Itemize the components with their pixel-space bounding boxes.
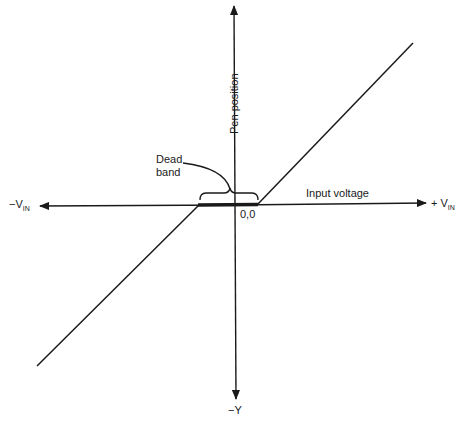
x-positive-prefix: + V	[431, 197, 448, 209]
origin-label-text: 0,0	[240, 208, 255, 220]
transfer-line-negative	[37, 205, 199, 366]
origin-label: 0,0	[240, 208, 255, 220]
dead-band-label-line1: Dead	[156, 153, 182, 166]
x-positive-label: + VIN	[431, 197, 455, 214]
dead-band-brace	[200, 188, 258, 200]
dead-band-segment	[198, 205, 258, 206]
x-axis-label: Input voltage	[306, 187, 369, 199]
x-negative-label: −VIN	[9, 198, 30, 215]
dead-band-label-line2: band	[156, 166, 182, 179]
dead-band-diagram	[0, 0, 461, 424]
transfer-line-positive	[257, 43, 413, 205]
dead-band-label: Dead band	[156, 153, 182, 179]
x-negative-subscript: IN	[23, 205, 30, 212]
y-axis-negative	[235, 205, 236, 399]
x-axis-label-text: Input voltage	[306, 187, 369, 199]
y-negative-label: −Y	[228, 404, 242, 416]
x-negative-prefix: −V	[9, 198, 23, 210]
x-axis-positive	[235, 203, 426, 205]
dead-band-leader	[183, 163, 230, 189]
y-axis-label: Pen position	[228, 73, 240, 134]
y-axis-label-text: Pen position	[228, 73, 240, 134]
x-positive-subscript: IN	[448, 204, 455, 211]
y-negative-label-text: −Y	[228, 404, 242, 416]
